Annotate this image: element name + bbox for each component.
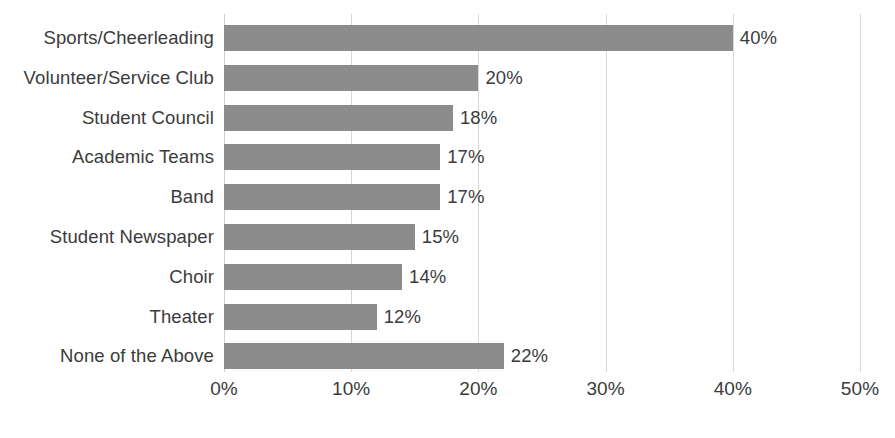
bar-row[interactable]: 20%: [224, 65, 860, 91]
bar-value-label: 22%: [511, 345, 548, 367]
bar-value-label: 14%: [409, 266, 446, 288]
bar[interactable]: [224, 105, 453, 131]
bar[interactable]: [224, 264, 402, 290]
plot-area: 40%20%18%17%17%15%14%12%22%: [224, 14, 860, 372]
category-axis: Sports/CheerleadingVolunteer/Service Clu…: [0, 14, 214, 372]
bar[interactable]: [224, 343, 504, 369]
bar[interactable]: [224, 224, 415, 250]
category-label: Academic Teams: [72, 144, 214, 170]
bar-row[interactable]: 15%: [224, 224, 860, 250]
bar-row[interactable]: 17%: [224, 144, 860, 170]
category-label: Theater: [150, 304, 214, 330]
category-label: Choir: [169, 264, 214, 290]
category-label: Volunteer/Service Club: [24, 65, 214, 91]
bar[interactable]: [224, 144, 440, 170]
x-tick-label: 30%: [586, 378, 624, 400]
bar-row[interactable]: 18%: [224, 105, 860, 131]
bar-value-label: 12%: [384, 306, 421, 328]
category-label: None of the Above: [60, 343, 214, 369]
bar[interactable]: [224, 25, 733, 51]
gridline-50: [860, 14, 861, 372]
bar-value-label: 18%: [460, 107, 497, 129]
bar-row[interactable]: 14%: [224, 264, 860, 290]
bar-row[interactable]: 12%: [224, 304, 860, 330]
bar-value-label: 15%: [422, 226, 459, 248]
bar-row[interactable]: 17%: [224, 184, 860, 210]
bar-value-label: 20%: [485, 67, 522, 89]
category-label: Band: [170, 184, 214, 210]
x-tick-label: 40%: [714, 378, 752, 400]
x-axis: 0%10%20%30%40%50%: [0, 378, 895, 412]
x-tick-label: 20%: [459, 378, 497, 400]
category-label: Student Newspaper: [50, 224, 214, 250]
bar[interactable]: [224, 304, 377, 330]
category-label: Sports/Cheerleading: [43, 25, 214, 51]
x-tick-label: 0%: [210, 378, 238, 400]
x-tick-label: 50%: [841, 378, 879, 400]
bar-row[interactable]: 22%: [224, 343, 860, 369]
category-label: Student Council: [82, 105, 214, 131]
bar-value-label: 40%: [740, 27, 777, 49]
bar[interactable]: [224, 184, 440, 210]
bar-value-label: 17%: [447, 186, 484, 208]
bar[interactable]: [224, 65, 478, 91]
bar-value-label: 17%: [447, 146, 484, 168]
bar-chart: Sports/CheerleadingVolunteer/Service Clu…: [0, 0, 895, 438]
x-tick-label: 10%: [332, 378, 370, 400]
bar-row[interactable]: 40%: [224, 25, 860, 51]
